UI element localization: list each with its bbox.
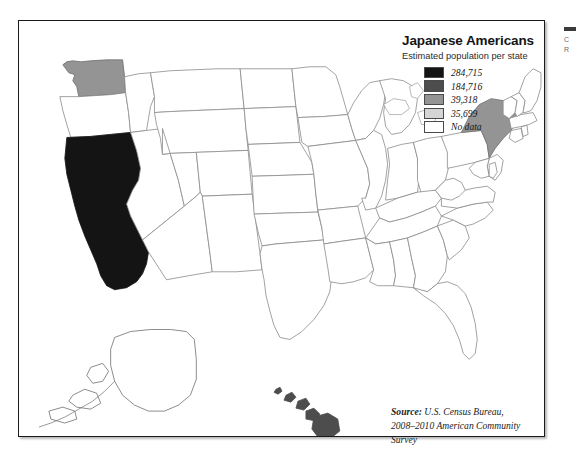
state-OR[interactable] xyxy=(60,93,131,138)
legend-row[interactable]: 39,318 xyxy=(402,93,542,107)
legend-swatch-none xyxy=(424,121,444,133)
state-MT[interactable] xyxy=(150,69,244,113)
state-SD[interactable] xyxy=(244,107,300,145)
source-note: Source: U.S. Census Bureau, 2008–2010 Am… xyxy=(391,405,544,447)
state-NE[interactable] xyxy=(248,142,314,176)
state-MN[interactable] xyxy=(292,67,348,118)
legend-swatch-high xyxy=(424,80,444,92)
panel-line-2: R xyxy=(564,45,580,55)
legend-row[interactable]: 184,716 xyxy=(402,79,542,93)
state-HI[interactable] xyxy=(274,387,340,436)
state-FL[interactable] xyxy=(413,282,477,360)
legend-label: 39,318 xyxy=(451,94,477,105)
map-legend: Japanese Americans Estimated population … xyxy=(402,33,542,134)
legend-row[interactable]: No data xyxy=(402,120,542,134)
legend-swatch-low xyxy=(424,108,444,120)
state-NM[interactable] xyxy=(202,194,262,272)
state-WI[interactable] xyxy=(348,81,386,141)
state-AR[interactable] xyxy=(318,206,366,244)
state-KS[interactable] xyxy=(252,174,318,214)
state-WA[interactable] xyxy=(63,60,126,97)
source-lead: Source: xyxy=(391,406,422,417)
state-AK[interactable] xyxy=(49,330,196,424)
map-figure: Japanese Americans Estimated population … xyxy=(18,20,545,437)
source-lead-rest: U.S. Census Bureau, xyxy=(422,406,504,417)
legend-row[interactable]: 284,715 xyxy=(402,66,542,80)
source-line-1: Source: U.S. Census Bureau, xyxy=(391,405,544,419)
panel-bar-icon xyxy=(564,27,576,31)
legend-entries: 284,715 184,716 39,318 35,699 No data xyxy=(402,66,542,134)
legend-label: No data xyxy=(451,121,482,132)
legend-label: 184,716 xyxy=(451,81,482,92)
legend-subtitle: Estimated population per state xyxy=(402,51,542,62)
state-TX[interactable] xyxy=(260,240,332,340)
page-root: Japanese Americans Estimated population … xyxy=(0,0,580,455)
legend-swatch-medium xyxy=(424,94,444,106)
state-ND[interactable] xyxy=(240,69,296,109)
legend-label: 284,715 xyxy=(451,67,482,78)
panel-line-1: C xyxy=(564,35,580,45)
legend-title: Japanese Americans xyxy=(402,33,542,49)
right-edge-panel[interactable]: C R xyxy=(562,24,580,64)
legend-swatch-highest xyxy=(424,67,444,79)
legend-row[interactable]: 35,699 xyxy=(402,106,542,120)
source-line-2: 2008–2010 American Community Survey xyxy=(391,419,544,447)
state-CO[interactable] xyxy=(196,150,252,196)
legend-label: 35,699 xyxy=(451,108,477,119)
state-LA[interactable] xyxy=(324,238,374,284)
state-IN[interactable] xyxy=(386,142,420,200)
